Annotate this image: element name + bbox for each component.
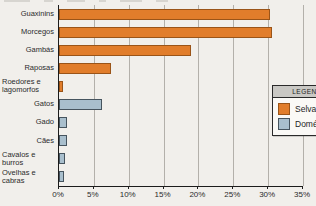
category-axis-labels: GuaxininsMorcegosGambásRaposasRoedores e… [0, 5, 54, 186]
category-label: Cães [0, 132, 54, 150]
bar-chart: GuaxininsMorcegosGambásRaposasRoedores e… [0, 0, 316, 206]
cropped-text-artifact [4, 0, 304, 3]
legend-items: Selvagem Doméstico [273, 98, 316, 135]
x-tick-label: 35% [294, 190, 310, 199]
x-tick-label: 10% [120, 190, 136, 199]
bar-row [59, 5, 303, 23]
bar-selvagem [59, 9, 270, 20]
bar-row [59, 168, 303, 186]
bar-row [59, 150, 303, 168]
legend-label: Doméstico [295, 119, 316, 129]
x-tick-label: 5% [87, 190, 99, 199]
bar-row [59, 59, 303, 77]
x-tick-label: 25% [224, 190, 240, 199]
category-label: Guaxinins [0, 5, 54, 23]
tick-mark [197, 186, 198, 189]
bar-selvagem [59, 63, 111, 74]
x-axis: 0%5%10%15%20%25%30%35% [58, 186, 302, 204]
bar-selvagem [59, 27, 272, 38]
x-tick-label: 30% [259, 190, 275, 199]
bar-domestico [59, 117, 67, 128]
category-label: Ovelhas e cabras [0, 168, 54, 186]
tick-mark [93, 186, 94, 189]
bar-row [59, 41, 303, 59]
bar-selvagem [59, 45, 191, 56]
bar-row [59, 23, 303, 41]
bar-domestico [59, 153, 65, 164]
category-label: Gambás [0, 41, 54, 59]
category-label: Roedores e lagomorfos [0, 77, 54, 95]
category-label: Cavalos e burros [0, 150, 54, 168]
legend: LEGENDA Selvagem Doméstico [272, 85, 316, 136]
tick-mark [163, 186, 164, 189]
category-label: Morcegos [0, 23, 54, 41]
bar-domestico [59, 135, 67, 146]
tick-mark [302, 186, 303, 189]
bar-domestico [59, 171, 64, 182]
tick-mark [267, 186, 268, 189]
rows [59, 5, 303, 186]
selvagem-swatch-icon [278, 103, 290, 115]
x-tick-label: 15% [155, 190, 171, 199]
category-label: Raposas [0, 59, 54, 77]
bar-domestico [59, 99, 102, 110]
bar-row [59, 132, 303, 150]
category-label: Gado [0, 114, 54, 132]
tick-mark [232, 186, 233, 189]
tick-mark [58, 186, 59, 189]
legend-title: LEGENDA [273, 86, 316, 98]
category-label: Gatos [0, 95, 54, 113]
bar-row [59, 95, 303, 113]
bar-selvagem [59, 81, 63, 92]
tick-mark [128, 186, 129, 189]
x-tick-label: 20% [189, 190, 205, 199]
bar-row [59, 77, 303, 95]
domestico-swatch-icon [278, 118, 290, 130]
x-tick-label: 0% [52, 190, 64, 199]
legend-label: Selvagem [295, 104, 316, 114]
legend-item-selvagem: Selvagem [278, 103, 316, 115]
legend-item-domestico: Doméstico [278, 118, 316, 130]
plot-area: LEGENDA Selvagem Doméstico [58, 5, 303, 187]
bar-row [59, 114, 303, 132]
